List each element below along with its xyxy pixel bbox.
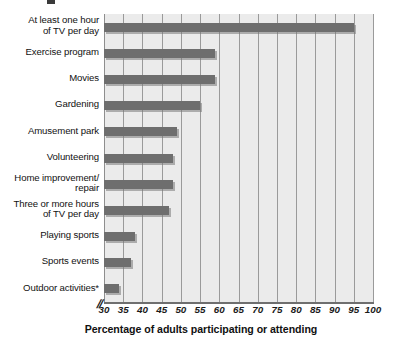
x-tick-label: 40 xyxy=(137,304,148,315)
x-tick-label: 30 xyxy=(99,304,110,315)
bar-category-label: Outdoor activities* xyxy=(23,283,99,294)
bar xyxy=(104,206,169,215)
x-axis-title: Percentage of adults participating or at… xyxy=(0,323,402,335)
x-tick-label: 90 xyxy=(329,304,340,315)
bar-category-label: Exercise program xyxy=(25,47,99,58)
x-tick-label: 100 xyxy=(365,304,381,315)
x-tick-label: 35 xyxy=(118,304,129,315)
bar xyxy=(104,101,200,110)
x-tick-label: 75 xyxy=(271,304,282,315)
x-tick-label: 65 xyxy=(233,304,244,315)
x-tick-label: 85 xyxy=(310,304,321,315)
bar xyxy=(104,284,119,293)
bar xyxy=(104,232,135,241)
x-tick-label: 70 xyxy=(252,304,263,315)
bar xyxy=(104,23,354,32)
bar xyxy=(104,127,177,136)
x-tick-label: 45 xyxy=(156,304,167,315)
x-tick-label: 55 xyxy=(195,304,206,315)
x-tick-label: 50 xyxy=(175,304,186,315)
x-axis-ticks: 3035404550556065707580859095100 xyxy=(0,304,402,318)
bar xyxy=(104,258,131,267)
title-fragment xyxy=(47,0,55,4)
x-tick-label: 80 xyxy=(291,304,302,315)
bar-category-label: Sports events xyxy=(42,256,99,267)
bar-category-label: Playing sports xyxy=(40,230,99,241)
bar-category-label: At least one hour of TV per day xyxy=(28,15,99,36)
x-tick-label: 95 xyxy=(348,304,359,315)
x-tick-label: 60 xyxy=(214,304,225,315)
bar xyxy=(104,180,173,189)
bar-category-label: Volunteering xyxy=(47,152,99,163)
bar xyxy=(104,49,215,58)
bar-category-label: Three or more hours of TV per day xyxy=(13,199,99,220)
chart-root: At least one hour of TV per dayExercise … xyxy=(0,0,402,345)
bar-category-label: Movies xyxy=(69,73,99,84)
bar xyxy=(104,154,173,163)
bar-category-label: Home improvement/ repair xyxy=(14,173,99,194)
bar xyxy=(104,75,215,84)
bar-category-label: Amusement park xyxy=(28,126,99,137)
bar-category-label: Gardening xyxy=(55,99,99,110)
bar-rows: At least one hour of TV per dayExercise … xyxy=(0,14,402,302)
